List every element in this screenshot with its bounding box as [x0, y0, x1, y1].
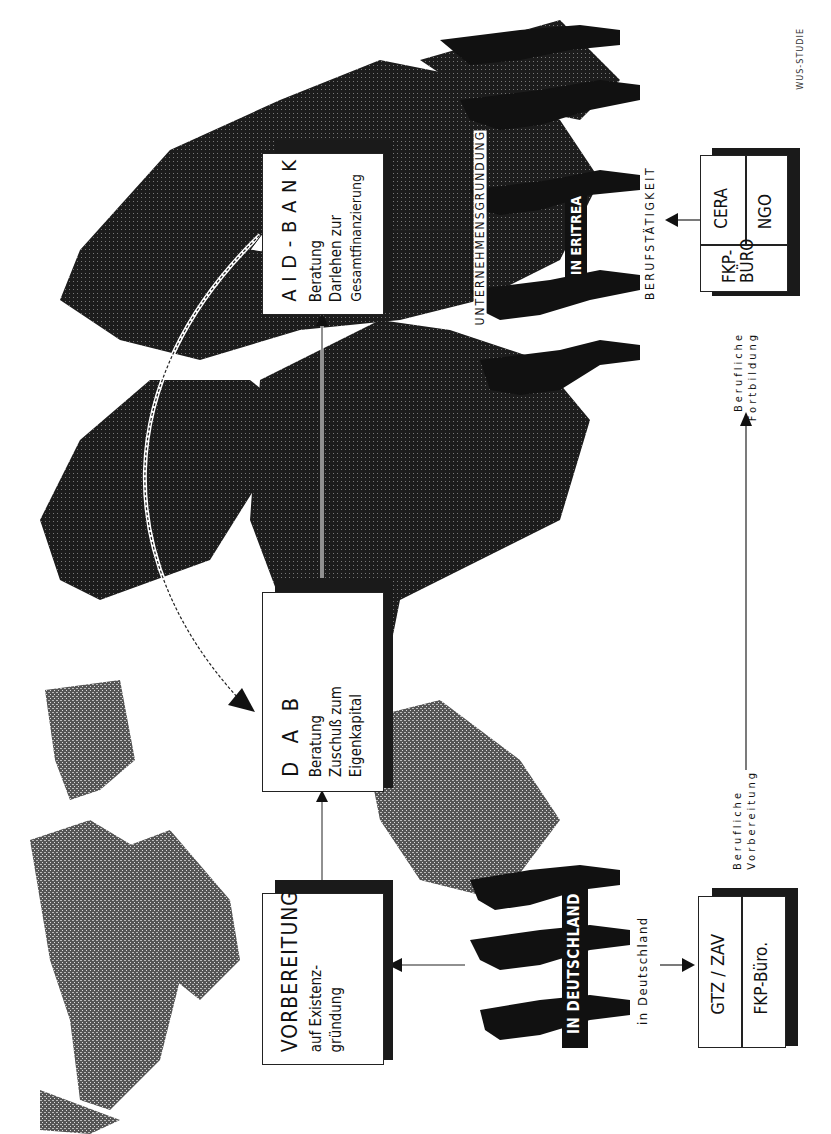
aid-bank-line-1: Beratung [309, 240, 325, 302]
in-eritrea-banner: IN ERITREA [565, 188, 587, 283]
dab-line-3: Eigenkapital [349, 694, 365, 777]
dab-line-1: Beratung [309, 715, 325, 777]
berufliche-vorbereitung-line-1: Berufliche [732, 790, 744, 870]
arrowhead-to-gtz [682, 958, 695, 972]
box-eritrea-orgs: FKP-BÜRO CERA NGO [700, 155, 788, 292]
arrowhead-to-berufstaetigkeit [665, 213, 678, 227]
fkp-buero-label: FKP-Büro. [753, 942, 771, 1015]
aid-bank-line-2: Darlehen zur [329, 215, 345, 302]
berufliche-vorbereitung-line-2: Vorbereitung [746, 770, 758, 870]
in-deutschland-label: in Deutschland [636, 895, 650, 1025]
box-germany-orgs: GTZ / ZAV FKP-Büro. [698, 896, 786, 1048]
aid-bank-line-3: Gesamtfinanzierung [349, 174, 364, 302]
curved-arrow-dab-aidbank [145, 235, 260, 700]
ngo-label: NGO [757, 194, 775, 229]
berufliche-fortbildung-line-2: Fortbildung [747, 332, 759, 421]
aid-bank-title: A I D - B A N K [279, 159, 300, 302]
gtz-zav-label: GTZ / ZAV [709, 934, 728, 1015]
berufliche-fortbildung-line-1: Berufliche [733, 332, 745, 412]
cera-label: CERA [713, 188, 731, 229]
vorbereitung-line-1: auf Existenz- [309, 965, 325, 1052]
berufstaetigkeit-label: BERUFSTÄTIGKEIT [644, 166, 657, 300]
dab-line-2: Zuschuß zum [329, 686, 345, 777]
vorbereitung-line-2: gründung [329, 987, 345, 1052]
fkp-buero-eritrea-label: FKP-BÜRO [721, 239, 763, 283]
vorbereitung-title: VORBEREITUNG [279, 890, 301, 1052]
box-vorbereitung: VORBEREITUNG auf Existenz- gründung [262, 893, 384, 1065]
dab-title: D A B [279, 692, 302, 777]
box-dab: D A B Beratung Zuschuß zum Eigenkapital [262, 592, 384, 792]
unternehmensgruendung-label: UNTERNEHMENSGRÜNDUNG [474, 130, 487, 325]
in-deutschland-banner: IN DEUTSCHLAND [562, 880, 588, 1048]
box-aid-bank: A I D - B A N K Beratung Darlehen zur Ge… [262, 153, 384, 315]
source-label: WUS-STUDIE [796, 28, 805, 90]
